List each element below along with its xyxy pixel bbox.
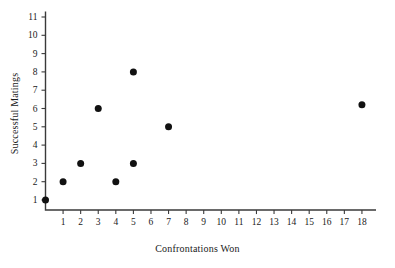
x-tick-label: 1: [61, 217, 66, 227]
x-tick-label: 12: [252, 217, 262, 227]
x-tick-label: 9: [201, 217, 206, 227]
x-tick-label: 7: [166, 217, 171, 227]
data-point: [77, 160, 84, 167]
x-tick-label: 2: [78, 217, 83, 227]
x-tick-label: 8: [184, 217, 189, 227]
data-point: [130, 68, 137, 75]
data-point: [130, 160, 137, 167]
y-tick-label: 1: [4, 195, 38, 205]
data-point: [112, 178, 119, 185]
x-tick-label: 15: [304, 217, 314, 227]
x-tick-label: 4: [113, 217, 118, 227]
data-point: [60, 178, 67, 185]
scatter-plot-figure: 1234567891011 12345678910111213141516171…: [0, 0, 395, 268]
axis-lines: [46, 12, 377, 211]
data-points-group: [42, 68, 365, 203]
x-tick-label: 6: [149, 217, 154, 227]
plot-area: 1234567891011 12345678910111213141516171…: [0, 0, 395, 268]
axes-svg: [0, 0, 395, 268]
axis-spine: [46, 12, 377, 211]
y-tick-label: 11: [4, 12, 38, 22]
x-tick-label: 18: [357, 217, 367, 227]
x-tick-label: 5: [131, 217, 136, 227]
data-point: [358, 101, 365, 108]
data-point: [165, 123, 172, 130]
x-tick-label: 14: [287, 217, 297, 227]
x-tick-label: 11: [234, 217, 243, 227]
tick-marks: [42, 17, 362, 214]
x-tick-label: 16: [322, 217, 332, 227]
x-tick-label: 17: [340, 217, 350, 227]
data-point: [42, 197, 49, 204]
x-tick-label: 13: [269, 217, 279, 227]
data-point: [95, 105, 102, 112]
x-axis-title: Confrontations Won: [0, 243, 395, 254]
x-tick-label: 3: [96, 217, 101, 227]
x-tick-label: 10: [217, 217, 227, 227]
y-axis-title: Successful Matings: [9, 34, 20, 194]
